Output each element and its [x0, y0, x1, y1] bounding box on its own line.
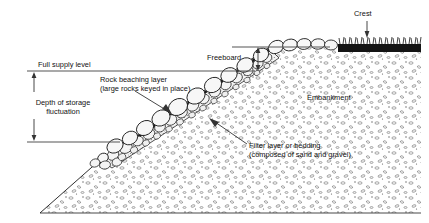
label-embankment: Embankment	[307, 94, 351, 103]
label-crest: Crest	[354, 10, 372, 19]
label-full-supply-level: Full supply level	[38, 61, 91, 70]
label-filter-layer-line2: (composed of sand and gravel)	[249, 151, 351, 160]
crest-grass	[338, 37, 421, 52]
diagram-canvas: Crest Freeboard Full supply level Depth …	[0, 0, 429, 223]
rock-layer-leader-arrow	[135, 91, 172, 114]
crest-leader-arrow	[365, 21, 370, 38]
label-rock-beaching-line2: (large rocks keyed in place)	[100, 85, 190, 94]
label-freeboard: Freeboard	[207, 54, 241, 63]
label-depth-of-storage-line2: fluctuation	[18, 108, 108, 117]
